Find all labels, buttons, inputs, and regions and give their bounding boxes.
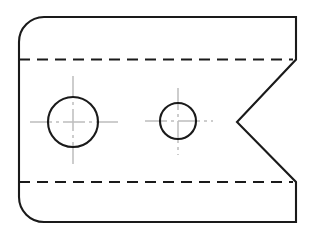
drawing-svg xyxy=(0,0,310,239)
technical-drawing-canvas xyxy=(0,0,310,239)
plate-outline xyxy=(19,17,296,222)
